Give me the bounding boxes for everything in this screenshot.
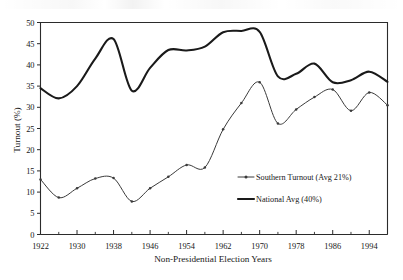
data-point [39,178,42,181]
data-point [149,187,152,190]
series-line [41,82,388,202]
y-tick-label: 5 [30,209,34,218]
plot-frame [41,23,388,235]
data-point [76,187,79,190]
x-axis-ticks [41,230,388,235]
turnout-line-chart: 05101520253035404550 1922193019381946195… [0,0,403,280]
y-tick-label: 15 [26,167,34,176]
data-point [112,177,115,180]
x-tick-label: 1938 [105,242,122,251]
x-tick-label: 1930 [69,242,86,251]
data-point [331,88,334,91]
data-point [350,109,353,112]
chart-legend: Southern Turnout (Avg 21%)National Avg (… [238,173,352,204]
legend-marker [245,176,248,179]
series-national [41,28,388,98]
axis-box [41,23,388,235]
x-axis-title: Non-Presidential Election Years [154,254,272,264]
y-tick-label: 40 [26,61,34,70]
series-line [41,28,388,98]
legend-item-national: National Avg (40%) [238,195,322,204]
data-point [240,102,243,105]
data-point [295,108,298,111]
y-axis-title: Turnout (%) [12,107,22,152]
x-tick-label: 1994 [361,242,379,251]
x-tick-label: 1978 [288,242,305,251]
series-southern [39,81,389,203]
data-point [58,196,61,199]
data-point [222,128,225,131]
x-tick-label: 1954 [178,242,196,251]
y-tick-label: 10 [26,188,34,197]
x-axis-tick-labels: 1922193019381946195419621970197819861994 [32,242,378,251]
data-point [313,96,316,99]
y-tick-label: 35 [26,82,34,91]
chart-figure: 05101520253035404550 1922193019381946195… [0,0,403,280]
data-point [386,104,389,107]
data-point [167,176,170,179]
y-axis-tick-labels: 05101520253035404550 [26,19,34,240]
y-tick-label: 50 [26,19,34,28]
y-tick-label: 45 [26,40,34,49]
x-tick-label: 1962 [215,242,232,251]
x-tick-label: 1922 [32,242,49,251]
x-tick-label: 1946 [142,242,159,251]
data-point [368,91,371,94]
data-point [131,200,134,203]
x-tick-label: 1970 [251,242,268,251]
y-tick-label: 20 [26,146,34,155]
data-point [277,122,280,125]
x-tick-label: 1986 [324,242,341,251]
legend-label: National Avg (40%) [256,195,322,204]
y-tick-label: 25 [26,125,34,134]
data-point [94,177,97,180]
data-point [258,81,261,84]
y-tick-label: 30 [26,103,34,112]
legend-item-southern: Southern Turnout (Avg 21%) [238,173,352,182]
data-point [204,166,207,169]
legend-label: Southern Turnout (Avg 21%) [256,173,352,182]
y-tick-label: 0 [30,231,34,240]
data-point [185,164,188,167]
